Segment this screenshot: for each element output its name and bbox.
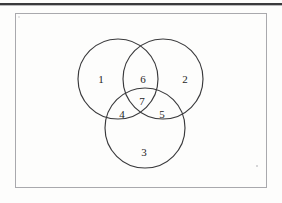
region-label-7: 7 [139, 96, 145, 107]
region-label-1: 1 [98, 74, 104, 85]
region-label-5: 5 [159, 109, 165, 120]
region-label-2: 2 [182, 74, 188, 85]
figure-page: 1 2 3 4 5 6 7 [0, 0, 282, 203]
scan-speckle [18, 16, 20, 18]
scan-speckle [256, 165, 258, 167]
region-label-4: 4 [119, 109, 125, 120]
region-label-6: 6 [140, 74, 146, 85]
region-label-3: 3 [141, 147, 147, 158]
